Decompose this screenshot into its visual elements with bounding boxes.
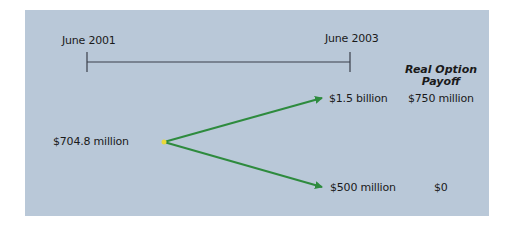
timeline: [87, 52, 350, 72]
header-line2: Payoff: [401, 76, 481, 88]
timeline-start-label: June 2001: [62, 34, 116, 47]
payoff-column-header: Real Option Payoff: [401, 64, 481, 88]
timeline-end-label: June 2003: [325, 32, 379, 45]
up-arrow: [164, 98, 322, 142]
down-arrow: [164, 142, 322, 187]
up-outcome-payoff: $750 million: [408, 92, 474, 105]
start-value-label: $704.8 million: [53, 135, 129, 148]
down-outcome-payoff: $0: [434, 181, 448, 194]
start-node: [162, 140, 167, 145]
down-outcome-value: $500 million: [330, 181, 396, 194]
up-outcome-value: $1.5 billion: [329, 92, 388, 105]
